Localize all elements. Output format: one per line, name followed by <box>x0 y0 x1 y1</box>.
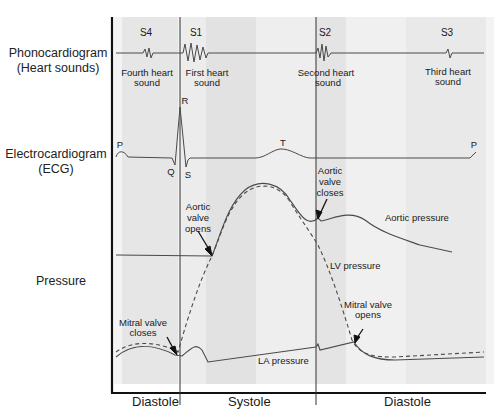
mitral-opens-line2: opens <box>355 309 381 320</box>
aortic-pressure-label: Aortic pressure <box>385 212 449 223</box>
s4-caption-line2: sound <box>134 77 160 88</box>
phase-systole: Systole <box>228 394 271 409</box>
s3-caption-line2: sound <box>435 76 461 87</box>
aortic-closes-line1: Aortic <box>318 165 343 176</box>
phase-diastole-2: Diastole <box>384 394 431 409</box>
ecg-p-start-label: P <box>117 139 123 150</box>
phase-diastole-1: Diastole <box>132 394 179 409</box>
ecg-s-label: S <box>185 169 191 180</box>
ecg-t-label: T <box>280 137 286 148</box>
cardiac-cycle-diagram: S4 S1 S2 S3 Fourth heart sound First hea… <box>0 0 497 414</box>
mitral-closes-line2: closes <box>130 327 157 338</box>
ecg-p-end-label: P <box>471 139 477 150</box>
s1-caption-line2: sound <box>194 77 220 88</box>
s4-label: S4 <box>140 27 153 38</box>
aortic-closes-line3: closes <box>317 187 344 198</box>
ecg-q-label: Q <box>167 166 174 177</box>
lv-pressure-label: LV pressure <box>330 260 381 271</box>
ecg-r-label: R <box>182 95 189 106</box>
s2-label: S2 <box>319 27 332 38</box>
aortic-opens-line1: Aortic <box>186 201 211 212</box>
aortic-opens-line2: valve <box>187 212 209 223</box>
s2-caption-line2: sound <box>315 77 341 88</box>
s1-label: S1 <box>190 27 203 38</box>
s3-label: S3 <box>441 27 454 38</box>
aortic-closes-line2: valve <box>319 176 341 187</box>
aortic-opens-line3: opens <box>185 223 211 234</box>
la-pressure-label: LA pressure <box>258 355 309 366</box>
